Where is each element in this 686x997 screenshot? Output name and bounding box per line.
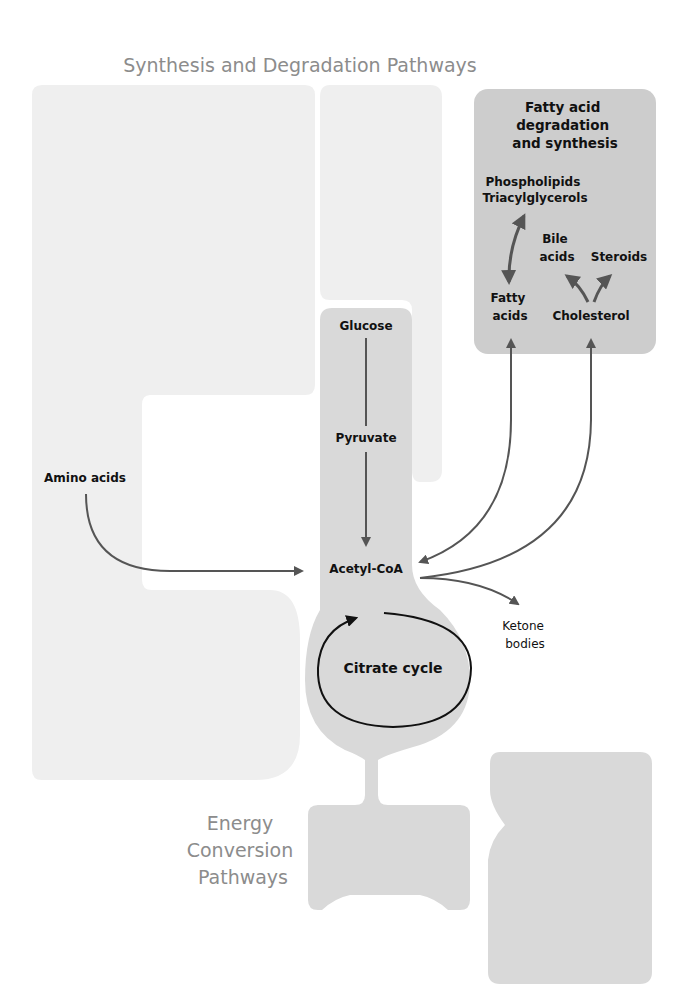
acetyl-coa-node: Acetyl-CoA	[329, 562, 403, 576]
label-line: Triacylglycerols	[482, 191, 587, 205]
title-line: degradation	[516, 117, 609, 133]
section-title: Synthesis and Degradation Pathways	[123, 54, 476, 76]
label-line: Phospholipids	[486, 175, 581, 189]
ketone-arrow	[420, 578, 518, 604]
label-line: acids	[539, 250, 574, 264]
cholesterol-acetylcoa-arrow	[420, 340, 591, 578]
metabolic-pathway-diagram: Synthesis and Degradation Pathways Energ…	[0, 0, 686, 997]
ketone-bodies-node: Ketone bodies	[502, 619, 548, 651]
glucose-node: Glucose	[339, 319, 392, 333]
central-pathway-region	[305, 308, 470, 910]
pyruvate-node: Pyruvate	[335, 431, 396, 445]
energy-conversion-label: Energy Conversion Pathways	[187, 812, 300, 888]
label-line: Fatty	[490, 291, 525, 305]
label-line: bodies	[505, 637, 545, 651]
label-line: Conversion	[187, 839, 294, 861]
left-light-region	[32, 85, 315, 780]
label-line: Energy	[207, 812, 274, 834]
label-line: Pathways	[198, 866, 288, 888]
amino-acids-node: Amino acids	[44, 471, 126, 485]
fatty-acid-box-title: Fatty acid degradation and synthesis	[512, 99, 617, 151]
label-line: acids	[492, 309, 527, 323]
steroids-label: Steroids	[591, 250, 648, 264]
title-line: and synthesis	[512, 135, 617, 151]
label-line: Bile	[542, 232, 568, 246]
cholesterol-label: Cholesterol	[552, 309, 629, 323]
bottom-right-region	[488, 752, 652, 984]
citrate-cycle-label: Citrate cycle	[343, 660, 442, 676]
label-line: Ketone	[502, 619, 544, 633]
title-line: Fatty acid	[525, 99, 600, 115]
